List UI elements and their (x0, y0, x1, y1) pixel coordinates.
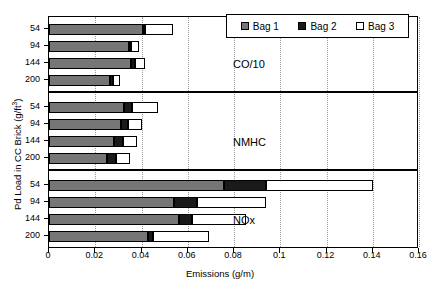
legend-item-bag-2: Bag 2 (298, 21, 336, 32)
legend-swatch-icon (298, 22, 306, 30)
y-tick-mark (44, 45, 48, 46)
panel-label-nmhc: NMHC (233, 136, 266, 148)
gridline (373, 17, 374, 247)
x-axis-title: Emissions (g/m) (0, 268, 440, 279)
bar-segment-bag-1 (49, 102, 124, 113)
y-tick-label: 200 (14, 75, 40, 84)
emissions-stacked-bar-chart: Emissions (g/m) Pd Load in CC Brick (g/f… (0, 0, 440, 293)
bar-segment-bag-3 (116, 153, 130, 164)
y-tick-label: 144 (14, 136, 40, 145)
y-tick-label: 200 (14, 153, 40, 162)
y-tick-label: 54 (14, 102, 40, 111)
y-tick-mark (44, 140, 48, 141)
y-tick-mark (44, 157, 48, 158)
bar-segment-bag-3 (128, 119, 142, 130)
x-tick-label: 0.06 (167, 250, 207, 260)
x-tick-label: 0 (28, 250, 68, 260)
bar-segment-bag-2 (174, 197, 197, 208)
bar-segment-bag-3 (135, 58, 145, 69)
bar-segment-bag-2 (124, 102, 132, 113)
gridline (327, 17, 328, 247)
legend-label: Bag 3 (368, 21, 394, 32)
gridline (234, 17, 235, 247)
bar-segment-bag-3 (131, 41, 139, 52)
y-tick-label: 54 (14, 24, 40, 33)
panel-separator (49, 169, 417, 171)
x-tick-label: 0.16 (398, 250, 438, 260)
y-tick-label: 200 (14, 231, 40, 240)
bar-segment-bag-1 (49, 119, 121, 130)
bar-segment-bag-1 (49, 136, 114, 147)
legend-label: Bag 2 (310, 21, 336, 32)
x-tick-label: 0.1 (259, 250, 299, 260)
bar-segment-bag-3 (266, 180, 372, 191)
legend-item-bag-1: Bag 1 (241, 21, 279, 32)
bar-segment-bag-1 (49, 180, 224, 191)
y-tick-mark (44, 123, 48, 124)
bar-segment-bag-3 (197, 197, 266, 208)
legend-item-bag-3: Bag 3 (356, 21, 394, 32)
y-tick-mark (44, 28, 48, 29)
bar-segment-bag-1 (49, 231, 148, 242)
bar-segment-bag-1 (49, 214, 179, 225)
x-tick-label: 0.12 (306, 250, 346, 260)
bar-segment-bag-3 (132, 102, 157, 113)
bar-segment-bag-3 (153, 231, 209, 242)
legend-swatch-icon (356, 22, 364, 30)
y-tick-label: 94 (14, 119, 40, 128)
bar-segment-bag-1 (49, 24, 143, 35)
y-tick-label: 144 (14, 58, 40, 67)
bar-segment-bag-2 (121, 119, 128, 130)
bar-segment-bag-1 (49, 41, 129, 52)
panel-separator (49, 91, 417, 93)
panel-label-co-10: CO/10 (233, 58, 265, 70)
bar-segment-bag-3 (123, 136, 137, 147)
bar-segment-bag-1 (49, 58, 131, 69)
legend: Bag 1Bag 2Bag 3 (226, 14, 409, 38)
bar-segment-bag-2 (114, 136, 123, 147)
y-tick-mark (44, 235, 48, 236)
x-tick-label: 0.04 (121, 250, 161, 260)
gridline (188, 17, 189, 247)
y-tick-label: 94 (14, 41, 40, 50)
bar-segment-bag-1 (49, 75, 110, 86)
gridline (142, 17, 143, 247)
legend-swatch-icon (241, 22, 249, 30)
bar-segment-bag-1 (49, 153, 107, 164)
x-tick-label: 0.02 (74, 250, 114, 260)
legend-label: Bag 1 (253, 21, 279, 32)
y-tick-mark (44, 79, 48, 80)
gridline (280, 17, 281, 247)
y-tick-label: 94 (14, 197, 40, 206)
y-tick-label: 144 (14, 214, 40, 223)
y-tick-mark (44, 106, 48, 107)
bar-segment-bag-3 (113, 75, 120, 86)
y-tick-mark (44, 218, 48, 219)
panel-label-nox: NOx (233, 214, 255, 226)
gridline (419, 17, 420, 247)
y-tick-label: 54 (14, 180, 40, 189)
y-tick-mark (44, 184, 48, 185)
bar-segment-bag-1 (49, 197, 174, 208)
x-tick-label: 0.08 (213, 250, 253, 260)
y-tick-mark (44, 201, 48, 202)
bar-segment-bag-2 (179, 214, 193, 225)
bar-segment-bag-2 (107, 153, 116, 164)
bar-segment-bag-2 (224, 180, 267, 191)
y-tick-mark (44, 62, 48, 63)
bar-segment-bag-3 (145, 24, 173, 35)
x-tick-label: 0.14 (352, 250, 392, 260)
